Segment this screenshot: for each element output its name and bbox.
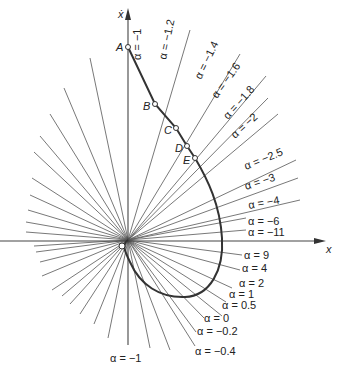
isocline-label: α = −3	[243, 171, 277, 192]
isocline-label: α = −1	[110, 352, 141, 364]
isocline-label: α = −1.2	[156, 18, 176, 60]
point-e	[193, 156, 198, 161]
point-b	[153, 102, 158, 107]
isocline-label: α = −11	[248, 226, 285, 238]
label-a: A	[115, 41, 123, 53]
isocline-label: α = −0.4	[195, 345, 236, 357]
label-b: B	[143, 100, 150, 112]
isocline-label: α = −1	[131, 29, 143, 60]
y-axis-label: ẋ	[117, 8, 124, 20]
isocline-label: α = 0.5	[222, 299, 256, 311]
isocline-label: α = −0.2	[197, 325, 238, 337]
y-axis-arrow-icon	[125, 8, 131, 20]
point-origin	[119, 243, 125, 249]
label-c: C	[164, 124, 172, 136]
isocline-label: α = 4	[242, 262, 267, 274]
isocline-lines	[26, 30, 300, 350]
label-d: D	[175, 142, 183, 154]
x-axis-arrow-icon	[314, 238, 326, 244]
point-c	[174, 126, 179, 131]
isocline-label: α = 9	[244, 249, 269, 261]
point-a	[126, 45, 131, 50]
trajectory-curve	[124, 47, 222, 297]
isocline-label: α = 0	[204, 312, 229, 324]
isocline-diagram: ẋ x A B C D E α = −1 α = −1.2 α = −1.4 α…	[0, 0, 346, 369]
label-e: E	[183, 154, 191, 166]
point-d	[185, 144, 190, 149]
isocline-label: α = −2.5	[242, 146, 284, 172]
isocline-labels-lower: α = 9 α = 4 α = 2 α = 1 α = 0.5 α = 0 α …	[110, 249, 269, 364]
isocline-label: α = −4	[247, 194, 280, 211]
isocline-label: α = −1.4	[192, 39, 221, 81]
x-axis-label: x	[325, 243, 332, 255]
